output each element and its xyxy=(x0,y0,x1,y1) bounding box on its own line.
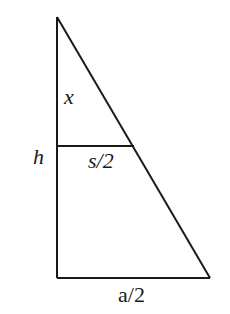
hypotenuse xyxy=(57,17,210,278)
triangle-diagram: x h s/2 a/2 xyxy=(0,0,230,314)
label-x: x xyxy=(63,84,74,109)
label-a-half: a/2 xyxy=(118,282,145,307)
label-h: h xyxy=(33,144,44,169)
label-s-half: s/2 xyxy=(88,148,114,173)
